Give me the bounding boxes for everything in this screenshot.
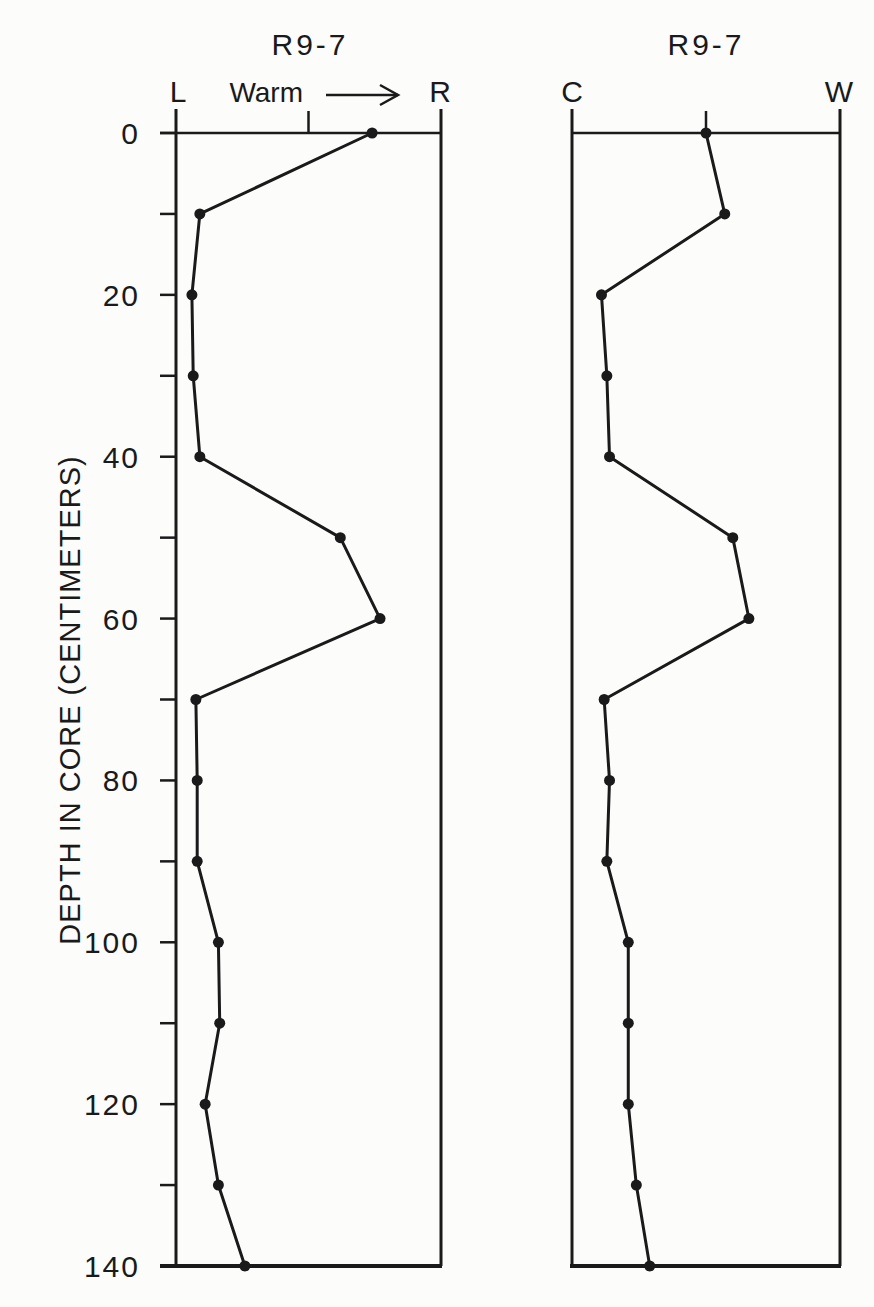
data-point-marker — [213, 1180, 224, 1191]
warm-arrow-icon — [326, 85, 398, 105]
data-point-marker — [601, 856, 612, 867]
y-tick-label: 40 — [103, 441, 140, 474]
data-point-marker — [631, 1180, 642, 1191]
panel-left-warm-annotation: Warm — [229, 77, 303, 108]
y-tick-label: 120 — [84, 1088, 140, 1121]
data-point-marker — [743, 613, 754, 624]
y-tick-label: 100 — [84, 926, 140, 959]
data-point-marker — [623, 1099, 634, 1110]
data-point-marker — [601, 370, 612, 381]
data-point-marker — [701, 128, 712, 139]
data-point-marker — [213, 937, 224, 948]
data-point-marker — [192, 856, 203, 867]
panel-left-frame — [160, 109, 442, 1266]
data-point-marker — [194, 208, 205, 219]
data-point-marker — [190, 694, 201, 705]
panel-left-x-right-label: R — [429, 75, 451, 108]
panel-right-x-left-label: C — [561, 75, 583, 108]
data-point-marker — [200, 1099, 211, 1110]
data-point-marker — [367, 128, 378, 139]
data-point-marker — [375, 613, 386, 624]
data-point-marker — [644, 1261, 655, 1272]
series-line — [192, 133, 380, 1266]
data-point-marker — [335, 532, 346, 543]
y-tick-labels: 020406080100120140 — [84, 117, 140, 1283]
y-tick-label: 140 — [84, 1250, 140, 1283]
data-point-marker — [186, 289, 197, 300]
data-point-marker — [719, 208, 730, 219]
panel-left-series — [186, 128, 385, 1272]
data-point-marker — [623, 937, 634, 948]
data-point-marker — [596, 289, 607, 300]
panel-left-x-left-label: L — [170, 75, 187, 108]
data-point-marker — [727, 532, 738, 543]
data-point-marker — [214, 1018, 225, 1029]
data-point-marker — [599, 694, 610, 705]
data-point-marker — [604, 451, 615, 462]
panel-right-series — [596, 128, 754, 1272]
data-point-marker — [239, 1261, 250, 1272]
panel-right-x-right-label: W — [825, 75, 854, 108]
y-tick-label: 20 — [103, 279, 140, 312]
data-point-marker — [604, 775, 615, 786]
y-axis-label: DEPTH IN CORE (CENTIMETERS) — [54, 455, 86, 944]
data-point-marker — [194, 451, 205, 462]
panel-left-warmth-LR: R9-7 L R Warm — [160, 28, 451, 1272]
y-tick-label: 0 — [121, 117, 140, 150]
y-tick-label: 80 — [103, 764, 140, 797]
panel-right-frame — [570, 109, 841, 1266]
panel-right-warmth-CW: R9-7 C W — [561, 28, 854, 1272]
panel-left-title: R9-7 — [271, 28, 348, 61]
panel-right-title: R9-7 — [667, 28, 744, 61]
core-profile-figure: DEPTH IN CORE (CENTIMETERS) 020406080100… — [0, 0, 874, 1307]
data-point-marker — [623, 1018, 634, 1029]
data-point-marker — [192, 775, 203, 786]
data-point-marker — [188, 370, 199, 381]
y-tick-label: 60 — [103, 603, 140, 636]
series-line — [601, 133, 748, 1266]
